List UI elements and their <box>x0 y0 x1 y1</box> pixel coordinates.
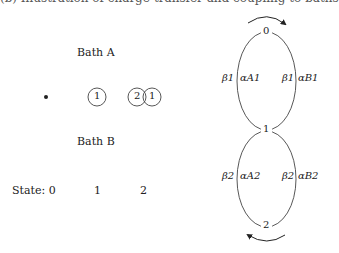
upper-right-beta: β1 <box>282 72 294 83</box>
site-1-glyph: 1 <box>94 90 100 101</box>
site-2-glyph-b: 1 <box>149 90 155 101</box>
bath-b-label: Bath B <box>77 135 115 148</box>
upper-left-alpha: αA1 <box>240 72 260 83</box>
node-0: 0 <box>263 25 269 36</box>
state-2-label: 2 <box>140 184 147 197</box>
lower-right-alpha: αB2 <box>298 170 318 181</box>
lower-rotation-arrow-icon <box>248 235 285 241</box>
node-1: 1 <box>263 123 269 134</box>
state-label: State: 0 <box>12 184 56 197</box>
node-2: 2 <box>263 219 269 230</box>
upper-left-beta: β1 <box>222 72 234 83</box>
lower-left-alpha: αA2 <box>240 170 260 181</box>
bath-a-label: Bath A <box>77 46 115 59</box>
state-0-empty-site <box>44 95 48 99</box>
lower-right-beta: β2 <box>282 170 294 181</box>
upper-right-alpha: αB1 <box>298 72 318 83</box>
site-2-glyph-a: 2 <box>134 90 140 101</box>
state-1-label: 1 <box>94 184 101 197</box>
lower-left-beta: β2 <box>222 170 234 181</box>
upper-rotation-arrow-icon <box>248 17 285 24</box>
